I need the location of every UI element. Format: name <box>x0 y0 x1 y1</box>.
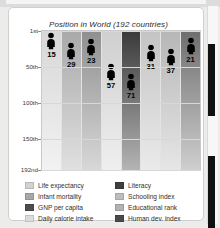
chart-band[interactable]: 15 <box>42 31 62 170</box>
legend-label: Human dev. index <box>128 215 181 222</box>
chart-band[interactable]: 31 <box>141 31 161 170</box>
person-marker-icon: 37 <box>164 49 177 66</box>
legend-label: GNP per capita <box>38 204 83 211</box>
person-marker-icon: 71 <box>124 73 137 90</box>
vertical-scrollbar[interactable] <box>207 6 218 224</box>
legend-item[interactable]: Educational rank <box>115 202 205 213</box>
gridline: 100th <box>41 103 201 104</box>
legend-swatch <box>25 193 34 200</box>
legend-label: Life expectancy <box>38 182 84 189</box>
y-axis-tick-mark <box>38 67 41 68</box>
legend-label: Infant mortality <box>38 193 81 200</box>
legend-swatch <box>115 193 124 200</box>
gridline: 50th <box>41 67 201 68</box>
scrollbar-thumb-upper[interactable] <box>208 44 215 116</box>
rank-value-label: 21 <box>186 54 194 63</box>
y-axis-tick-mark <box>38 103 41 104</box>
y-axis-tick-label: 150th <box>23 135 38 142</box>
person-marker-icon: 15 <box>45 33 58 50</box>
gridline: 1st <box>41 31 201 32</box>
rank-value-label: 15 <box>47 50 55 59</box>
person-marker-icon: 29 <box>65 43 78 60</box>
rank-value-label: 57 <box>107 80 115 89</box>
legend-item[interactable]: Schooling index <box>115 191 205 202</box>
chart-title: Position in World (192 countries) <box>49 20 168 29</box>
rank-value-label: 23 <box>87 56 95 65</box>
plot-area: 1529235771313721 1st50th100th150th192nd <box>41 30 201 171</box>
legend-column-right: LiteracySchooling indexEducational rankH… <box>115 180 205 224</box>
person-marker-icon: 23 <box>85 39 98 56</box>
legend-item[interactable]: Infant mortality <box>25 191 115 202</box>
legend-label: Literacy <box>128 182 151 189</box>
person-marker-icon: 31 <box>144 44 157 61</box>
gridline: 150th <box>41 139 201 140</box>
legend-label: Schooling index <box>128 193 175 200</box>
legend-swatch <box>115 182 124 189</box>
legend-swatch <box>25 182 34 189</box>
legend-label: Daily calorie intake <box>38 215 93 222</box>
rank-value-label: 71 <box>127 90 135 99</box>
legend-item[interactable]: Human dev. index <box>115 213 205 224</box>
screenshot-root: Position in World (192 countries) 152923… <box>0 0 220 228</box>
legend-item[interactable]: Life expectancy <box>25 180 115 191</box>
y-axis-tick-label: 192nd <box>21 166 38 173</box>
gridline: 192nd <box>41 170 201 171</box>
band-container: 1529235771313721 <box>42 31 200 170</box>
chart-band[interactable]: 21 <box>181 31 200 170</box>
chart-band[interactable]: 23 <box>82 31 102 170</box>
chart-band[interactable]: 29 <box>62 31 82 170</box>
chart-band[interactable]: 37 <box>161 31 181 170</box>
window-top-strip <box>0 0 220 7</box>
legend-label: Educational rank <box>128 204 177 211</box>
chart-band[interactable]: 57 <box>102 31 122 170</box>
legend-swatch <box>25 215 34 222</box>
y-axis-tick-mark <box>38 170 41 171</box>
legend-swatch <box>115 204 124 211</box>
legend-swatch <box>25 204 34 211</box>
window-top-strip-inner <box>6 0 206 4</box>
legend-column-left: Life expectancyInfant mortalityGNP per c… <box>25 180 115 224</box>
legend-item[interactable]: GNP per capita <box>25 202 115 213</box>
chart-legend: Life expectancyInfant mortalityGNP per c… <box>25 180 205 224</box>
scrollbar-thumb-lower[interactable] <box>208 156 215 228</box>
legend-item[interactable]: Literacy <box>115 180 205 191</box>
chart-panel: Position in World (192 countries) 152923… <box>8 7 204 221</box>
y-axis-tick-label: 1st <box>30 27 38 34</box>
legend-item[interactable]: Daily calorie intake <box>25 213 115 224</box>
y-axis-tick-label: 100th <box>23 99 38 106</box>
y-axis-tick-mark <box>38 139 41 140</box>
y-axis-tick-mark <box>38 31 41 32</box>
chart-band[interactable]: 71 <box>122 31 142 170</box>
y-axis-tick-label: 50th <box>26 63 38 70</box>
legend-swatch <box>115 215 124 222</box>
person-marker-icon: 21 <box>184 37 197 54</box>
